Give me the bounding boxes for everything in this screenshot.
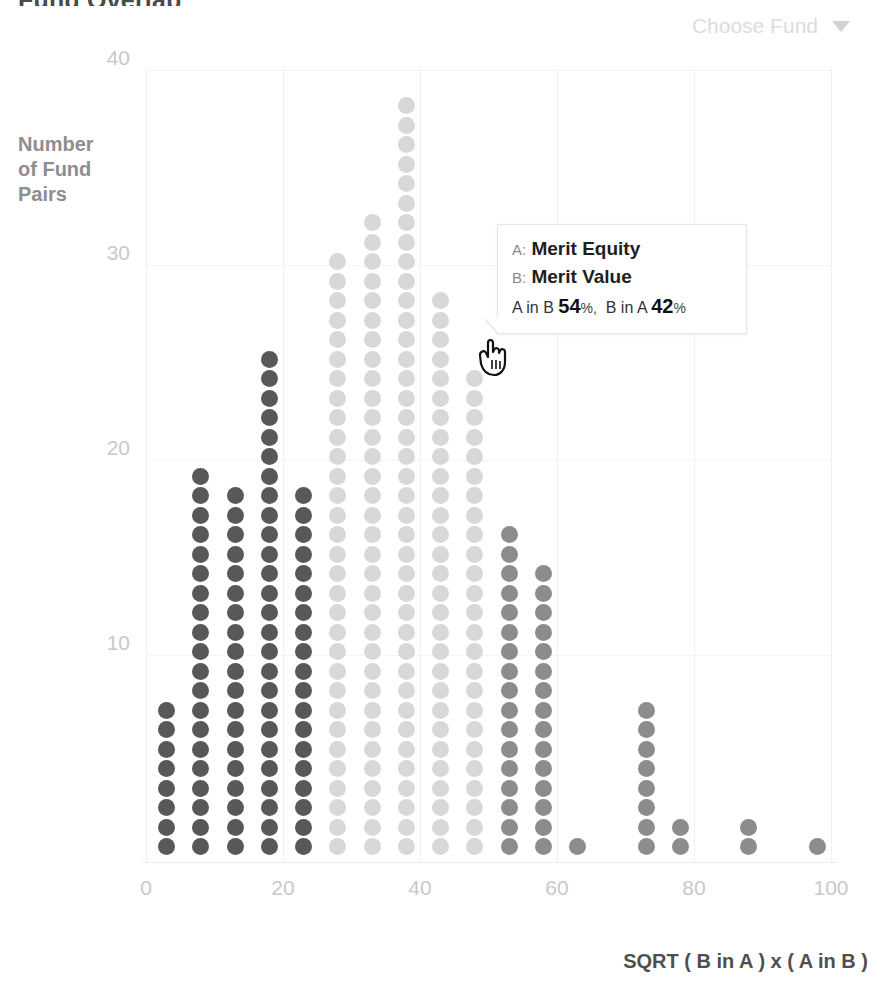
data-dot[interactable] — [501, 663, 518, 680]
data-dot[interactable] — [398, 234, 415, 251]
data-dot[interactable] — [432, 702, 449, 719]
data-dot[interactable] — [364, 780, 381, 797]
data-dot[interactable] — [740, 819, 757, 836]
data-dot[interactable] — [158, 819, 175, 836]
data-dot[interactable] — [535, 819, 552, 836]
data-dot[interactable] — [432, 741, 449, 758]
data-dot[interactable] — [364, 741, 381, 758]
data-dot[interactable] — [364, 351, 381, 368]
data-dot[interactable] — [364, 487, 381, 504]
data-dot[interactable] — [432, 565, 449, 582]
data-dot[interactable] — [227, 585, 244, 602]
data-dot[interactable] — [329, 741, 346, 758]
data-dot[interactable] — [329, 351, 346, 368]
data-dot[interactable] — [432, 526, 449, 543]
data-dot[interactable] — [535, 624, 552, 641]
data-dot[interactable] — [501, 838, 518, 855]
data-dot[interactable] — [535, 721, 552, 738]
data-dot[interactable] — [638, 819, 655, 836]
data-dot[interactable] — [432, 663, 449, 680]
data-dot[interactable] — [364, 526, 381, 543]
data-dot[interactable] — [466, 468, 483, 485]
data-dot[interactable] — [364, 838, 381, 855]
data-dot[interactable] — [501, 780, 518, 797]
data-dot[interactable] — [227, 507, 244, 524]
data-dot[interactable] — [192, 780, 209, 797]
data-dot[interactable] — [192, 663, 209, 680]
data-dot[interactable] — [398, 409, 415, 426]
data-dot[interactable] — [192, 799, 209, 816]
data-dot[interactable] — [329, 760, 346, 777]
data-dot[interactable] — [329, 331, 346, 348]
data-dot[interactable] — [432, 799, 449, 816]
data-dot[interactable] — [398, 175, 415, 192]
data-dot[interactable] — [398, 799, 415, 816]
data-dot[interactable] — [227, 487, 244, 504]
data-dot[interactable] — [329, 721, 346, 738]
data-dot[interactable] — [227, 741, 244, 758]
data-dot[interactable] — [569, 838, 586, 855]
data-dot[interactable] — [329, 312, 346, 329]
data-dot[interactable] — [364, 468, 381, 485]
data-dot[interactable] — [329, 390, 346, 407]
data-dot[interactable] — [295, 526, 312, 543]
data-dot[interactable] — [364, 819, 381, 836]
data-dot[interactable] — [295, 780, 312, 797]
data-dot[interactable] — [501, 819, 518, 836]
data-dot[interactable] — [398, 214, 415, 231]
data-dot[interactable] — [295, 741, 312, 758]
data-dot[interactable] — [329, 253, 346, 270]
data-dot[interactable] — [398, 117, 415, 134]
data-dot[interactable] — [192, 760, 209, 777]
data-dot[interactable] — [466, 604, 483, 621]
data-dot[interactable] — [501, 585, 518, 602]
data-dot[interactable] — [398, 292, 415, 309]
data-dot[interactable] — [432, 507, 449, 524]
data-dot[interactable] — [432, 429, 449, 446]
data-dot[interactable] — [329, 838, 346, 855]
data-dot[interactable] — [261, 409, 278, 426]
data-dot[interactable] — [227, 780, 244, 797]
data-dot[interactable] — [466, 448, 483, 465]
data-dot[interactable] — [398, 487, 415, 504]
data-dot[interactable] — [227, 721, 244, 738]
data-dot[interactable] — [261, 780, 278, 797]
data-dot[interactable] — [158, 702, 175, 719]
data-dot[interactable] — [364, 292, 381, 309]
data-dot[interactable] — [398, 526, 415, 543]
data-dot[interactable] — [398, 97, 415, 114]
data-dot[interactable] — [364, 331, 381, 348]
data-dot[interactable] — [809, 838, 826, 855]
data-dot[interactable] — [261, 741, 278, 758]
data-dot[interactable] — [261, 721, 278, 738]
data-dot[interactable] — [432, 331, 449, 348]
data-dot[interactable] — [192, 585, 209, 602]
data-dot[interactable] — [158, 721, 175, 738]
data-dot[interactable] — [192, 604, 209, 621]
data-dot[interactable] — [501, 643, 518, 660]
data-dot[interactable] — [364, 370, 381, 387]
data-dot[interactable] — [261, 429, 278, 446]
data-dot[interactable] — [192, 741, 209, 758]
data-dot[interactable] — [432, 312, 449, 329]
data-dot[interactable] — [364, 253, 381, 270]
data-dot[interactable] — [398, 448, 415, 465]
data-dot[interactable] — [432, 487, 449, 504]
data-dot[interactable] — [329, 799, 346, 816]
data-dot[interactable] — [261, 585, 278, 602]
data-dot[interactable] — [295, 585, 312, 602]
data-dot[interactable] — [398, 760, 415, 777]
data-dot[interactable] — [192, 838, 209, 855]
data-dot[interactable] — [192, 565, 209, 582]
data-dot[interactable] — [364, 234, 381, 251]
data-dot[interactable] — [466, 624, 483, 641]
data-dot[interactable] — [364, 663, 381, 680]
data-dot[interactable] — [192, 643, 209, 660]
data-dot[interactable] — [501, 565, 518, 582]
data-dot[interactable] — [192, 624, 209, 641]
data-dot[interactable] — [466, 526, 483, 543]
data-dot[interactable] — [364, 682, 381, 699]
data-dot[interactable] — [158, 741, 175, 758]
data-dot[interactable] — [432, 721, 449, 738]
data-dot[interactable] — [501, 526, 518, 543]
